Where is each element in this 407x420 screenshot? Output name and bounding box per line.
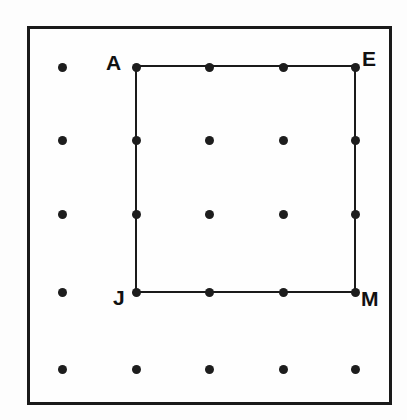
grid-dot-r5-c2: [132, 365, 141, 374]
grid-dot-r3-c5: [351, 210, 360, 219]
vertex-label-e: E: [362, 48, 376, 69]
grid-dot-r3-c3: [205, 210, 214, 219]
vertex-label-m: M: [361, 288, 379, 309]
grid-dot-r4-c2: [132, 288, 141, 297]
grid-dot-r1-c5: [351, 63, 360, 72]
grid-dot-r1-c2: [132, 63, 141, 72]
grid-dot-r3-c2: [132, 210, 141, 219]
grid-dot-r4-c3: [205, 288, 214, 297]
grid-dot-r4-c1: [58, 288, 67, 297]
grid-dot-r5-c5: [351, 365, 360, 374]
grid-dot-r1-c3: [205, 63, 214, 72]
grid-dot-r1-c1: [58, 63, 67, 72]
grid-dot-r2-c1: [58, 136, 67, 145]
grid-dot-r2-c2: [132, 136, 141, 145]
grid-dot-r2-c4: [279, 136, 288, 145]
grid-dot-r3-c4: [279, 210, 288, 219]
vertex-label-a: A: [106, 52, 121, 73]
geometry-figure: AEJM: [0, 0, 407, 420]
grid-dot-r4-c5: [351, 288, 360, 297]
grid-dot-r5-c4: [279, 365, 288, 374]
grid-dot-r2-c3: [205, 136, 214, 145]
grid-dot-r3-c1: [58, 210, 67, 219]
vertex-label-j: J: [113, 287, 125, 308]
grid-dot-r1-c4: [279, 63, 288, 72]
grid-dot-r5-c1: [58, 365, 67, 374]
grid-dot-r2-c5: [351, 136, 360, 145]
grid-dot-r5-c3: [205, 365, 214, 374]
dot-grid: [0, 0, 407, 420]
grid-dot-r4-c4: [279, 288, 288, 297]
